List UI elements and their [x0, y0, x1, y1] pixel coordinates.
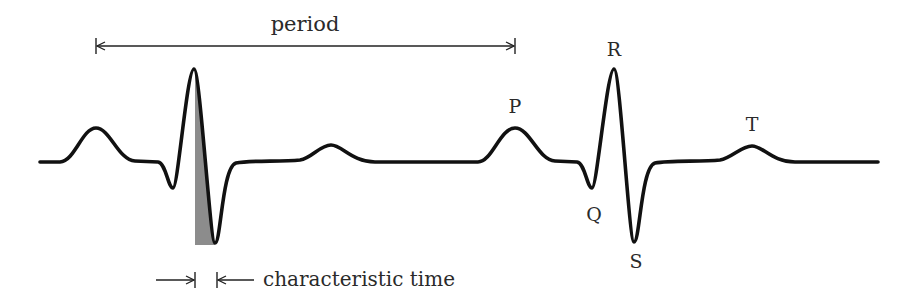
ecg-diagram: period P R Q S T characteristic time — [0, 0, 910, 308]
q-wave-label: Q — [586, 205, 602, 224]
ecg-trace — [40, 69, 878, 243]
t-wave-label: T — [746, 115, 759, 134]
r-wave-label: R — [607, 40, 621, 59]
ecg-svg — [0, 0, 910, 308]
characteristic-time-arrows — [156, 272, 254, 288]
characteristic-time-label: characteristic time — [263, 269, 455, 289]
s-wave-label: S — [629, 252, 642, 271]
p-wave-label: P — [509, 97, 522, 116]
period-arrow — [96, 38, 515, 54]
period-label: period — [271, 14, 340, 35]
